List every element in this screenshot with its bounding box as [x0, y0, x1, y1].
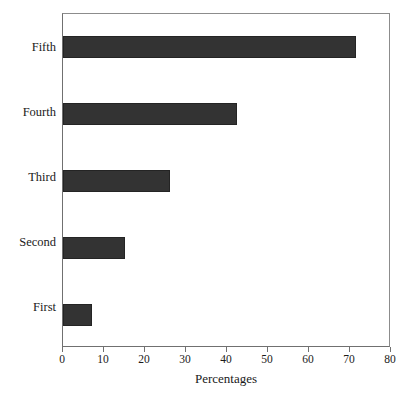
bar-band	[63, 81, 389, 148]
y-axis-label-third: Third	[2, 170, 56, 184]
bar-chart: Fifth Fourth Third Second First Percenta…	[0, 0, 409, 398]
bar-band	[63, 14, 389, 81]
x-tick-label: 70	[334, 352, 364, 366]
bar-band	[63, 281, 389, 348]
bar-first	[63, 304, 92, 326]
x-tick-label: 40	[211, 352, 241, 366]
plot-area	[62, 13, 390, 347]
x-tick-label: 0	[47, 352, 77, 366]
x-tick-label: 60	[293, 352, 323, 366]
x-tick-label: 80	[375, 352, 405, 366]
bar-fifth	[63, 36, 356, 58]
x-tick-label: 50	[252, 352, 282, 366]
y-axis-label-first: First	[2, 300, 56, 314]
y-axis-label-second: Second	[2, 235, 56, 249]
bar-fourth	[63, 103, 237, 125]
bar-third	[63, 170, 170, 192]
bar-second	[63, 237, 125, 259]
x-axis-title: Percentages	[62, 371, 390, 387]
bar-band	[63, 148, 389, 215]
x-tick-label: 20	[129, 352, 159, 366]
x-tick-label: 30	[170, 352, 200, 366]
y-axis-label-fifth: Fifth	[2, 40, 56, 54]
x-tick-label: 10	[88, 352, 118, 366]
bar-band	[63, 214, 389, 281]
y-axis-label-fourth: Fourth	[2, 105, 56, 119]
